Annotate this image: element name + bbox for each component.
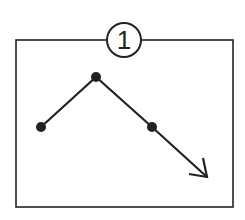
frame-box bbox=[16, 40, 233, 207]
diagram-canvas: 1 bbox=[0, 0, 245, 220]
point-2 bbox=[91, 72, 101, 82]
badge-number: 1 bbox=[117, 25, 131, 55]
point-3 bbox=[147, 122, 157, 132]
point-1 bbox=[36, 122, 46, 132]
path-line bbox=[41, 77, 207, 177]
